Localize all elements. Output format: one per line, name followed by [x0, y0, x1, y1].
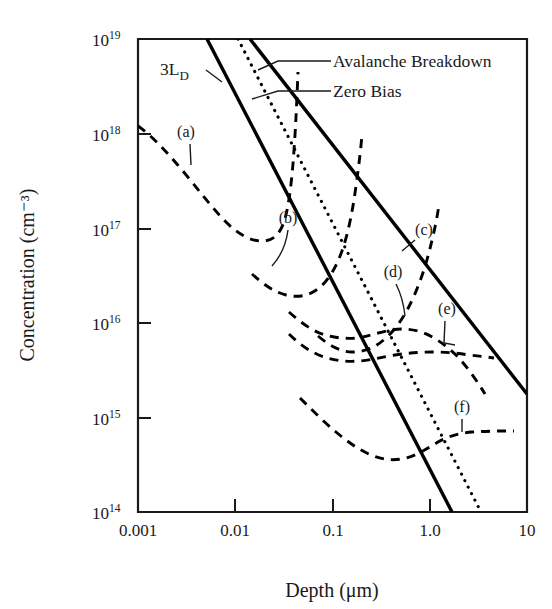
x-tick-labels: 0.001 0.01 0.1 1.0 10	[119, 521, 536, 540]
series-curve-d	[289, 312, 485, 394]
series-curve-f	[300, 398, 514, 460]
series-line-zero-bias	[238, 39, 481, 512]
x-tick-label-0.01: 0.01	[220, 521, 250, 540]
y-tick-label-1e14: 1014	[92, 502, 121, 523]
y-tick-labels: 1019 1018 1017 1016 1015 1014	[92, 29, 121, 523]
curve-label-a: (a)	[177, 123, 195, 165]
curve-label-a-text: (a)	[177, 123, 195, 141]
x-axis-ticks	[235, 499, 430, 512]
annotation-avalanche-breakdown-text: Avalanche Breakdown	[333, 51, 492, 71]
curve-label-e: (e)	[438, 300, 456, 345]
leader-line-three-ld	[206, 70, 222, 82]
curve-label-b: (b)	[272, 209, 297, 266]
curve-label-e-text: (e)	[438, 300, 456, 318]
curve-label-d: (d)	[384, 263, 405, 316]
x-axis-title-text: Depth (μm)	[285, 579, 378, 602]
y-tick-label-1e19: 1019	[92, 29, 121, 50]
curve-label-c: (c)	[402, 221, 433, 251]
x-tick-label-10: 10	[519, 521, 536, 540]
annotation-zero-bias: Zero Bias	[252, 81, 402, 101]
series-curve-a	[138, 72, 298, 241]
leader-line-a	[190, 144, 191, 165]
doping-profile-chart: Concentration (cm⁻³) Depth (μm) 1019 101…	[0, 0, 552, 609]
y-axis-ticks	[138, 134, 151, 418]
x-tick-label-1.0: 1.0	[419, 521, 440, 540]
y-tick-label-1e17: 1017	[92, 219, 121, 240]
curve-label-f: (f)	[454, 398, 470, 432]
series-line-3ld	[207, 39, 452, 512]
y-axis-title: Concentration (cm⁻³)	[16, 188, 39, 361]
y-tick-label-1e16: 1016	[92, 313, 121, 334]
annotation-avalanche-breakdown: Avalanche Breakdown	[258, 51, 492, 71]
curve-label-d-text: (d)	[384, 263, 403, 281]
x-axis-title: Depth (μm)	[285, 579, 378, 602]
y-axis-title-text: Concentration (cm⁻³)	[16, 188, 39, 361]
leader-line-b	[272, 230, 288, 266]
annotation-three-ld: 3LD	[160, 59, 222, 83]
annotation-zero-bias-text: Zero Bias	[333, 81, 402, 101]
y-tick-label-1e15: 1015	[92, 408, 121, 429]
x-tick-label-0.001: 0.001	[119, 521, 157, 540]
leader-line-d	[396, 284, 405, 316]
plot-frame	[138, 39, 527, 512]
x-tick-label-0.1: 0.1	[322, 521, 343, 540]
leader-line-e	[444, 321, 455, 345]
curve-label-c-text: (c)	[415, 221, 433, 239]
y-tick-label-1e18: 1018	[92, 124, 121, 145]
curve-label-b-text: (b)	[279, 209, 298, 227]
annotation-three-ld-text: 3LD	[160, 59, 189, 83]
curve-label-f-text: (f)	[454, 398, 470, 416]
